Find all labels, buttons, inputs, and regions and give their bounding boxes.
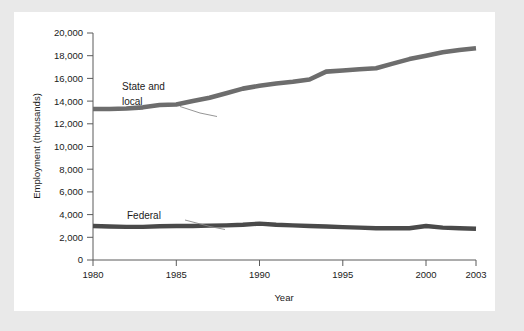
x-tick-label: 1990 — [249, 269, 270, 280]
y-tick-label: 16,000 — [54, 73, 83, 84]
x-tick-label: 1985 — [166, 269, 187, 280]
y-tick-label: 14,000 — [54, 96, 83, 107]
y-tick-label: 0 — [78, 254, 83, 265]
x-tick-label: 2003 — [465, 269, 486, 280]
employment-line-chart: 0 2,000 4,000 6,000 8,000 10,000 12,000 … — [14, 12, 495, 311]
y-tick-label: 10,000 — [54, 141, 83, 152]
y-tick-label: 4,000 — [59, 209, 83, 220]
y-tick-label: 8,000 — [59, 164, 83, 175]
federal-label: Federal — [127, 210, 161, 221]
y-tick-label: 20,000 — [54, 27, 83, 38]
x-tick-label: 1995 — [332, 269, 353, 280]
y-tick-label: 6,000 — [59, 186, 83, 197]
federal-label-line1: Federal — [127, 210, 161, 221]
state-and-local-label-line2: local — [122, 96, 143, 107]
x-tick-label: 2000 — [415, 269, 436, 280]
x-tick-label: 1980 — [82, 269, 103, 280]
y-tick-label: 12,000 — [54, 118, 83, 129]
state-and-local-label-line1: State and — [122, 81, 165, 92]
y-tick-label: 18,000 — [54, 50, 83, 61]
y-tick-label: 2,000 — [59, 232, 83, 243]
x-axis-title: Year — [274, 292, 293, 303]
figure-card: 0 2,000 4,000 6,000 8,000 10,000 12,000 … — [14, 12, 495, 311]
y-axis-title: Employment (thousands) — [31, 93, 42, 199]
